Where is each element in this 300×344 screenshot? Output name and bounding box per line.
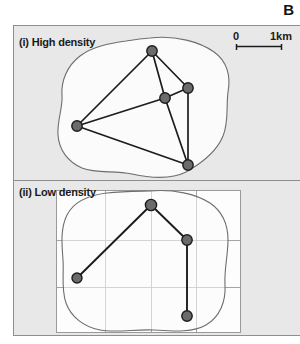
figure-panel-b: (i) High density (ii) Low density B 0 1k… [0, 0, 300, 344]
territory-blob-high [58, 37, 229, 177]
panel-letter-b: B [283, 1, 294, 18]
node-low-bottom [182, 311, 192, 321]
panel-high-density [58, 37, 229, 177]
scale-bar-start-label: 0 [233, 30, 239, 42]
node-high-left [72, 121, 82, 131]
figure-canvas [0, 0, 300, 344]
panel-label-high-density: (i) High density [19, 36, 95, 48]
node-high-center [160, 93, 170, 103]
scale-bar-end-label: 1km [270, 30, 292, 42]
node-high-bottom [183, 160, 193, 170]
node-low-right [182, 235, 192, 245]
node-high-right [183, 83, 193, 93]
node-low-top [145, 199, 156, 210]
panel-label-low-density: (ii) Low density [19, 186, 96, 198]
node-high-top [147, 46, 157, 56]
panel-low-density [57, 191, 241, 333]
node-low-left [72, 273, 82, 283]
